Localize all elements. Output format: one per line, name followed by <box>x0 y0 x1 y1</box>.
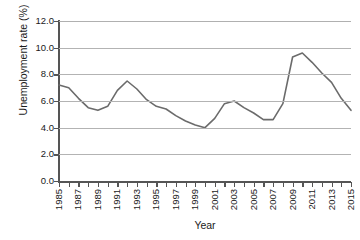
plot-area <box>59 21 351 181</box>
gridline <box>59 128 351 129</box>
x-tick-mark <box>322 182 323 187</box>
x-tick-label: 1991 <box>112 189 122 210</box>
x-tick-label: 2009 <box>288 189 298 210</box>
x-tick-mark <box>127 182 128 187</box>
x-tick-mark <box>332 182 333 187</box>
y-axis-title: Unemployment rate (%) <box>17 0 29 135</box>
x-tick-mark <box>176 182 177 187</box>
y-tick-label: 0.0 <box>41 176 54 186</box>
y-tick-mark <box>54 181 58 182</box>
x-axis-title: Year <box>59 219 351 231</box>
x-tick-mark <box>302 182 303 187</box>
x-tick-mark <box>244 182 245 187</box>
x-tick-label: 2013 <box>327 189 337 210</box>
x-tick-mark <box>215 182 216 187</box>
gridline <box>59 74 351 75</box>
x-tick-label: 2011 <box>307 189 317 209</box>
y-tick-mark <box>54 48 58 49</box>
x-tick-label: 1985 <box>54 189 64 210</box>
gridline <box>59 48 351 49</box>
gridline <box>59 154 351 155</box>
x-tick-mark <box>273 182 274 187</box>
y-tick-mark <box>54 154 58 155</box>
x-tick-label: 1987 <box>73 189 83 210</box>
x-tick-mark <box>137 182 138 187</box>
y-tick-mark <box>54 21 58 22</box>
x-tick-label: 1999 <box>190 189 200 210</box>
x-tick-mark <box>78 182 79 187</box>
y-tick-label: 6.0 <box>41 96 54 106</box>
x-tick-mark <box>88 182 89 187</box>
x-tick-mark <box>263 182 264 187</box>
x-tick-label: 1997 <box>171 189 181 210</box>
x-tick-mark <box>117 182 118 187</box>
x-tick-mark <box>195 182 196 187</box>
y-tick-mark <box>54 74 58 75</box>
x-tick-mark <box>224 182 225 187</box>
y-tick-label: 10.0 <box>36 43 55 53</box>
x-tick-label: 2001 <box>210 189 220 210</box>
x-tick-mark <box>293 182 294 187</box>
x-tick-mark <box>166 182 167 187</box>
unemployment-rate-line-chart: 0.02.04.06.08.010.012.0 1985198719891991… <box>0 0 360 240</box>
x-tick-label: 2015 <box>346 189 356 210</box>
x-tick-mark <box>205 182 206 187</box>
x-tick-mark <box>147 182 148 187</box>
y-tick-label: 12.0 <box>36 16 55 26</box>
x-tick-mark <box>254 182 255 187</box>
y-tick-label: 8.0 <box>41 69 54 79</box>
x-tick-label: 2005 <box>249 189 259 210</box>
x-tick-label: 2003 <box>229 189 239 210</box>
gridline <box>59 21 351 22</box>
x-tick-mark <box>108 182 109 187</box>
x-tick-mark <box>69 182 70 187</box>
y-tick-mark <box>54 128 58 129</box>
x-tick-label: 2007 <box>268 189 278 210</box>
x-tick-mark <box>156 182 157 187</box>
x-tick-mark <box>283 182 284 187</box>
x-tick-mark <box>59 182 60 187</box>
gridline <box>59 101 351 102</box>
x-tick-mark <box>234 182 235 187</box>
x-tick-mark <box>351 182 352 187</box>
x-tick-label: 1995 <box>151 189 161 210</box>
y-tick-label: 2.0 <box>41 149 54 159</box>
x-tick-mark <box>312 182 313 187</box>
x-tick-mark <box>98 182 99 187</box>
x-tick-label: 1989 <box>93 189 103 210</box>
y-tick-label: 4.0 <box>41 123 54 133</box>
x-tick-mark <box>186 182 187 187</box>
x-tick-mark <box>341 182 342 187</box>
y-tick-mark <box>54 101 58 102</box>
x-tick-label: 1993 <box>132 189 142 210</box>
